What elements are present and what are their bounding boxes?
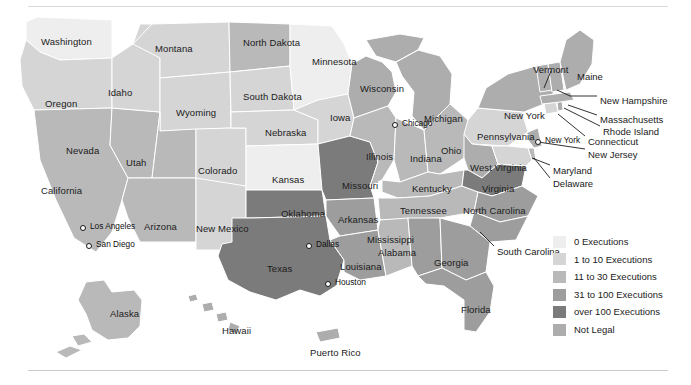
- state-label-oregon: Oregon: [45, 99, 77, 109]
- state-label-utah: Utah: [126, 158, 146, 168]
- state-label-texas: Texas: [267, 264, 292, 274]
- state-south-dakota: [230, 66, 294, 112]
- state-label-west-virginia: West Virginia: [470, 163, 527, 173]
- legend-label-3: 31 to 100 Executions: [574, 290, 663, 300]
- city-marker-houston: [325, 281, 331, 287]
- city-label-los-angeles: Los Angeles: [90, 222, 135, 230]
- state-label-georgia: Georgia: [434, 258, 469, 268]
- state-label-new-york: New York: [504, 111, 545, 121]
- city-marker-chicago: [392, 122, 398, 128]
- state-label-south-dakota: South Dakota: [243, 92, 302, 102]
- state-label-north-dakota: North Dakota: [243, 38, 300, 48]
- legend-row-0: 0 Executions: [553, 233, 685, 251]
- city-label-dallas: Dallas: [316, 240, 339, 248]
- legend-row-1: 1 to 10 Executions: [553, 251, 685, 269]
- state-label-alaska: Alaska: [110, 309, 139, 319]
- state-label-minnesota: Minnesota: [312, 57, 357, 67]
- city-label-chicago: Chicago: [402, 119, 432, 127]
- city-label-houston: Houston: [335, 278, 366, 286]
- callout-label-massachusetts: Massachusetts: [600, 115, 663, 125]
- callout-label-south-carolina: South Carolina: [497, 247, 560, 257]
- leader-massachusetts: [568, 105, 597, 115]
- state-label-wisconsin: Wisconsin: [360, 84, 404, 94]
- state-label-new-mexico: New Mexico: [196, 224, 249, 234]
- callout-label-connecticut: Connecticut: [588, 137, 638, 147]
- map-legend: 0 Executions1 to 10 Executions11 to 30 E…: [553, 233, 685, 339]
- state-label-ohio: Ohio: [441, 146, 461, 156]
- legend-label-5: Not Legal: [574, 325, 615, 335]
- legend-label-1: 1 to 10 Executions: [574, 255, 652, 265]
- legend-swatch-4: [553, 306, 566, 318]
- legend-row-5: Not Legal: [553, 321, 685, 339]
- legend-swatch-3: [553, 289, 566, 301]
- state-label-iowa: Iowa: [330, 113, 350, 123]
- state-label-hawaii: Hawaii: [222, 326, 251, 336]
- callout-label-vermont: Vermont: [533, 65, 568, 75]
- state-alaska: [56, 280, 142, 358]
- state-label-illinois: Illinois: [366, 152, 393, 162]
- state-label-arizona: Arizona: [144, 222, 177, 232]
- state-label-kansas: Kansas: [272, 175, 304, 185]
- state-puerto-rico: [316, 328, 340, 342]
- state-wyoming: [160, 72, 231, 131]
- state-florida: [418, 268, 494, 332]
- legend-swatch-0: [553, 236, 566, 248]
- legend-row-2: 11 to 30 Executions: [553, 268, 685, 286]
- city-label-new-york: New York: [545, 136, 580, 144]
- state-label-oklahoma: Oklahoma: [281, 209, 325, 219]
- state-label-alabama: Alabama: [378, 248, 416, 258]
- state-label-missouri: Missouri: [342, 181, 378, 191]
- state-label-montana: Montana: [155, 44, 193, 54]
- state-label-arkansas: Arkansas: [338, 215, 378, 225]
- city-marker-new-york: [535, 139, 541, 145]
- state-label-nebraska: Nebraska: [265, 128, 306, 138]
- callout-label-delaware: Delaware: [553, 179, 593, 189]
- state-label-mississippi: Mississippi: [367, 235, 414, 245]
- state-arizona: [122, 178, 196, 242]
- state-label-pennsylvania: Pennsylvania: [477, 132, 535, 142]
- state-label-tennessee: Tennessee: [400, 206, 447, 216]
- callout-label-new-jersey: New Jersey: [588, 150, 638, 160]
- legend-label-0: 0 Executions: [574, 237, 628, 247]
- leader-delaware: [534, 158, 550, 178]
- state-label-washington: Washington: [41, 37, 92, 47]
- state-label-california: California: [41, 186, 82, 196]
- legend-swatch-1: [553, 253, 566, 265]
- state-label-north-carolina: North Carolina: [463, 206, 526, 216]
- callout-label-new-hampshire: New Hampshire: [600, 96, 668, 106]
- leader-connecticut: [558, 114, 585, 136]
- legend-label-4: over 100 Executions: [574, 307, 660, 317]
- city-label-san-diego: San Diego: [96, 240, 135, 248]
- state-label-louisiana: Louisiana: [340, 262, 382, 272]
- state-label-idaho: Idaho: [108, 88, 132, 98]
- state-label-indiana: Indiana: [410, 154, 442, 164]
- city-marker-san-diego: [86, 243, 92, 249]
- city-marker-dallas: [306, 243, 312, 249]
- state-label-nevada: Nevada: [66, 146, 99, 156]
- city-marker-los-angeles: [80, 225, 86, 231]
- legend-row-4: over 100 Executions: [553, 303, 685, 321]
- callout-label-maine: Maine: [577, 72, 603, 82]
- state-label-wyoming: Wyoming: [176, 108, 216, 118]
- state-label-kentucky: Kentucky: [412, 184, 452, 194]
- callout-label-maryland: Maryland: [553, 166, 592, 176]
- state-label-puerto-rico: Puerto Rico: [310, 348, 361, 358]
- state-label-colorado: Colorado: [198, 166, 237, 176]
- legend-swatch-2: [553, 271, 566, 283]
- legend-label-2: 11 to 30 Executions: [574, 272, 657, 282]
- state-colorado: [196, 128, 246, 186]
- legend-row-3: 31 to 100 Executions: [553, 286, 685, 304]
- state-label-florida: Florida: [461, 305, 491, 315]
- map-figure: .s{stroke:#ffffff;stroke-width:1;} .c0{f…: [0, 0, 691, 385]
- legend-swatch-5: [553, 324, 566, 336]
- state-label-virginia: Virginia: [482, 184, 514, 194]
